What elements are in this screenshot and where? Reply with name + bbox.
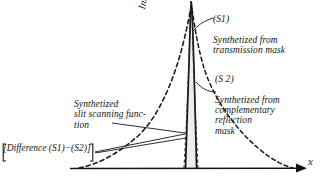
x-axis-arrowhead xyxy=(296,164,307,173)
annotation-s1-body: Synthetized from transmission mask xyxy=(213,35,285,55)
handdrawn-intensity-figure: Intensity x (S1) Synthetized from transm… xyxy=(0,0,326,183)
annotation-s2: (S 2) Synthetized from complementary ref… xyxy=(215,64,280,136)
annotation-difference: [Difference (S1)−(S2)] xyxy=(3,143,91,153)
x-axis-label: x xyxy=(308,155,313,167)
annotation-s2-head: (S 2) xyxy=(215,74,234,84)
annotation-slit-scanning: Synthetized slit scanning func- tion xyxy=(74,99,146,130)
leader-difference-lower xyxy=(95,138,186,153)
annotation-s1-head: (S1) xyxy=(213,14,229,24)
annotation-s1: (S1) Synthetized from transmission mask xyxy=(213,4,285,55)
leader-difference-upper xyxy=(95,134,185,152)
leader-lines xyxy=(95,18,216,153)
leader-s1 xyxy=(194,18,214,30)
annotation-s2-body: Synthetized from complementary reflectio… xyxy=(215,95,280,136)
